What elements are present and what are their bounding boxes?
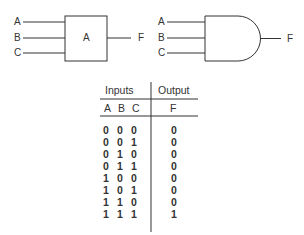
cell: 1 (115, 148, 125, 160)
cell: 1 (115, 208, 125, 220)
gate-input-a-label: A (158, 17, 165, 27)
col-b-header: B (118, 102, 125, 114)
cell: 0 (169, 136, 179, 148)
cell: 1 (101, 172, 111, 184)
block-label: A (83, 33, 90, 43)
col-c-header: C (132, 102, 140, 114)
gate-output-label: F (287, 34, 293, 44)
block-output-label: F (138, 33, 144, 43)
block-input-c-label: C (14, 48, 21, 58)
output-header: Output (158, 84, 190, 96)
cell: 1 (129, 136, 139, 148)
cell: 1 (115, 196, 125, 208)
cell: 0 (101, 148, 111, 160)
cell: 0 (115, 172, 125, 184)
cell: 0 (115, 184, 125, 196)
cell: 1 (101, 184, 111, 196)
cell: 0 (115, 124, 125, 136)
cell: 0 (169, 124, 179, 136)
cell: 0 (129, 196, 139, 208)
cell: 0 (129, 148, 139, 160)
cell: 0 (169, 172, 179, 184)
gate-input-c-label: C (158, 48, 165, 58)
inputs-header: Inputs (105, 84, 134, 96)
cell: 1 (169, 208, 179, 220)
col-f-header: F (170, 102, 176, 114)
cell: 0 (101, 124, 111, 136)
cell: 1 (129, 160, 139, 172)
cell: 0 (101, 160, 111, 172)
cell: 1 (115, 160, 125, 172)
cell: 0 (129, 124, 139, 136)
diagram-lines (0, 0, 304, 235)
cell: 0 (169, 184, 179, 196)
cell: 0 (169, 196, 179, 208)
cell: 1 (101, 196, 111, 208)
block-input-b-label: B (14, 33, 21, 43)
cell: 1 (129, 184, 139, 196)
cell: 0 (169, 160, 179, 172)
cell: 0 (169, 148, 179, 160)
block-input-a-label: A (14, 17, 21, 27)
cell: 0 (115, 136, 125, 148)
cell: 1 (101, 208, 111, 220)
cell: 0 (101, 136, 111, 148)
and-gate-symbol (205, 16, 261, 61)
col-a-header: A (104, 102, 111, 114)
cell: 1 (129, 208, 139, 220)
gate-input-b-label: B (158, 33, 165, 43)
cell: 0 (129, 172, 139, 184)
